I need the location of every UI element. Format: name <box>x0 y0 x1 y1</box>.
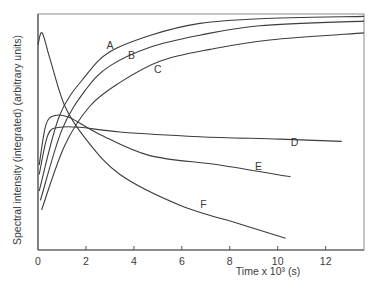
x-tick-label: 6 <box>179 255 185 267</box>
series-label-a: A <box>106 39 113 51</box>
x-tick-label: 0 <box>35 255 41 267</box>
x-tick-label: 4 <box>131 255 137 267</box>
series-label-c: C <box>154 63 162 75</box>
series-line-c <box>42 33 364 210</box>
series-line-d <box>39 127 342 175</box>
x-tick-label: 12 <box>320 255 332 267</box>
x-tick-label: 2 <box>83 255 89 267</box>
series-label-e: E <box>255 160 262 172</box>
series-line-f <box>38 33 286 239</box>
line-chart: 024681012 ABCDEF Time x 10³ (s) Spectral… <box>0 0 375 288</box>
series-line-b <box>40 21 364 200</box>
plot-frame <box>38 14 364 250</box>
series-label-d: D <box>291 136 299 148</box>
x-ticks: 024681012 <box>35 246 332 267</box>
y-axis-label: Spectral intensity (integrated) (arbitra… <box>11 35 23 245</box>
x-axis-label: Time x 10³ (s) <box>236 265 300 277</box>
series-line-a <box>39 16 364 191</box>
series-label-f: F <box>200 198 206 210</box>
series-label-b: B <box>128 49 135 61</box>
x-tick-label: 8 <box>227 255 233 267</box>
